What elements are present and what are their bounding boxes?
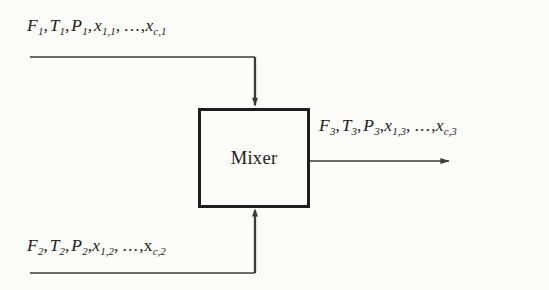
stream-1-label: F1, T1, P1, x1,1, ...,xc,1 [27, 17, 167, 37]
stream-3-label: F3, T3, P3,x1,3, ...,xc,3 [319, 117, 457, 137]
symbol-P: P [71, 235, 82, 255]
mixer-unit-label: Mixer [198, 148, 310, 169]
comma: , [43, 235, 48, 255]
comma: , [88, 15, 93, 35]
stream-1-arrow [30, 57, 255, 106]
subscript-c-1: c,1 [153, 25, 166, 37]
ellipsis: ... [124, 15, 141, 35]
subscript-c-3: c,3 [444, 125, 457, 137]
comma: , [335, 115, 340, 135]
comma: , [406, 115, 411, 135]
mixer-diagram-canvas: F1, T1, P1, x1,1, ...,xc,1 F2, T2, P2,x1… [0, 0, 549, 290]
subscript-1-1: 1,1 [102, 25, 116, 37]
symbol-T: T [50, 15, 60, 35]
comma: , [65, 15, 70, 35]
ellipsis: ... [414, 115, 431, 135]
symbol-T: T [342, 115, 352, 135]
symbol-x: x [94, 15, 102, 35]
comma: , [116, 15, 121, 35]
comma: , [357, 115, 362, 135]
subscript-c-2: c,2 [153, 245, 166, 257]
symbol-T: T [50, 235, 60, 255]
comma: , [65, 235, 70, 255]
stream-2-label: F2, T2, P2,x1,2, ...,xc,2 [27, 237, 166, 257]
subscript-1-2: 1,2 [100, 245, 114, 257]
symbol-P: P [71, 15, 82, 35]
symbol-F: F [27, 15, 38, 35]
symbol-F: F [27, 235, 38, 255]
symbol-F: F [319, 115, 330, 135]
symbol-P: P [363, 115, 374, 135]
comma: , [43, 15, 48, 35]
symbol-x: x [144, 235, 153, 255]
ellipsis: ... [122, 235, 139, 255]
symbol-x: x [436, 115, 444, 135]
comma: , [114, 235, 119, 255]
subscript-1-3: 1,3 [392, 125, 406, 137]
